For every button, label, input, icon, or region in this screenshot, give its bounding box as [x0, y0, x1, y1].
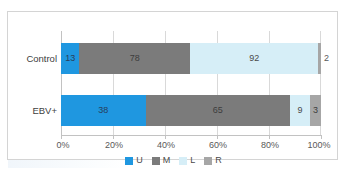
- bar-segment-ebv-r[interactable]: 3: [310, 95, 321, 126]
- legend-item-u[interactable]: U: [125, 156, 143, 165]
- bar-segment-control-u[interactable]: 13: [61, 43, 79, 74]
- bar-value-control-l: 92: [249, 54, 259, 63]
- legend-swatch-l-icon: [179, 157, 187, 165]
- x-tick-label-20: 20%: [105, 140, 123, 150]
- bar-value-ebv-m: 65: [213, 106, 223, 115]
- x-tick-mark-100: [321, 135, 322, 139]
- x-tick-label-60: 60%: [209, 140, 227, 150]
- bar-segment-control-l[interactable]: 92: [190, 43, 318, 74]
- plot-area: Control 13 78 92 2 EBV+ 38: [61, 31, 321, 135]
- legend-label-u: U: [136, 156, 143, 165]
- x-tick-label-40: 40%: [157, 140, 175, 150]
- legend-swatch-u-icon: [125, 157, 133, 165]
- legend-label-r: R: [215, 156, 222, 165]
- bar-row-ebv: EBV+ 38 65 9 3: [61, 95, 321, 126]
- stacked-bar-chart-figure: Control 13 78 92 2 EBV+ 38: [0, 0, 347, 179]
- bar-value-ebv-u: 38: [98, 106, 108, 115]
- legend-label-l: L: [190, 156, 195, 165]
- x-tick-mark-60: [217, 135, 218, 139]
- x-tick-label-0: 0%: [56, 140, 69, 150]
- legend-swatch-m-icon: [152, 157, 160, 165]
- legend-label-m: M: [163, 156, 171, 165]
- legend-item-l[interactable]: L: [179, 156, 195, 165]
- legend-item-r[interactable]: R: [204, 156, 222, 165]
- bar-segment-ebv-l[interactable]: 9: [290, 95, 310, 126]
- x-tick-label-80: 80%: [261, 140, 279, 150]
- x-axis-line: [61, 135, 322, 136]
- category-label-control: Control: [26, 43, 57, 74]
- chart-frame: Control 13 78 92 2 EBV+ 38: [7, 11, 338, 160]
- bar-value-control-u: 13: [65, 54, 75, 63]
- bar-segment-ebv-m[interactable]: 65: [146, 95, 291, 126]
- bar-value-control-r: 2: [324, 54, 329, 63]
- legend-item-m[interactable]: M: [152, 156, 171, 165]
- bar-row-control: Control 13 78 92 2: [61, 43, 321, 74]
- bar-segment-control-r[interactable]: 2: [318, 43, 321, 74]
- bar-segment-ebv-u[interactable]: 38: [61, 95, 146, 126]
- bar-value-control-m: 78: [130, 54, 140, 63]
- x-tick-mark-20: [113, 135, 114, 139]
- bar-value-ebv-r: 3: [313, 106, 318, 115]
- category-label-ebv: EBV+: [32, 95, 57, 126]
- x-tick-mark-40: [165, 135, 166, 139]
- x-tick-mark-80: [269, 135, 270, 139]
- chart-legend: U M L R: [8, 156, 339, 165]
- bar-value-ebv-l: 9: [298, 106, 303, 115]
- x-tick-mark-0: [61, 135, 62, 139]
- x-tick-label-100: 100%: [307, 140, 330, 150]
- bar-segment-control-m[interactable]: 78: [79, 43, 190, 74]
- legend-swatch-r-icon: [204, 157, 212, 165]
